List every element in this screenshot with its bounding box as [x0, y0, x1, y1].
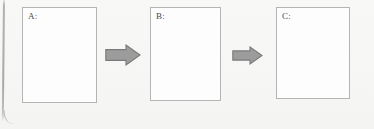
flow-box-a[interactable]: A:	[22, 7, 97, 103]
flow-box-c-label: C:	[282, 11, 291, 22]
flow-box-a-label: A:	[28, 11, 37, 22]
flow-box-b-label: B:	[156, 11, 165, 22]
arrow-right-icon-b-to-c	[232, 46, 263, 65]
flow-box-c[interactable]: C:	[276, 7, 350, 99]
arrow-right-icon-a-to-b	[105, 44, 141, 66]
figure-canvas: A: B: C:	[0, 0, 374, 129]
flow-box-b[interactable]: B:	[150, 7, 221, 101]
